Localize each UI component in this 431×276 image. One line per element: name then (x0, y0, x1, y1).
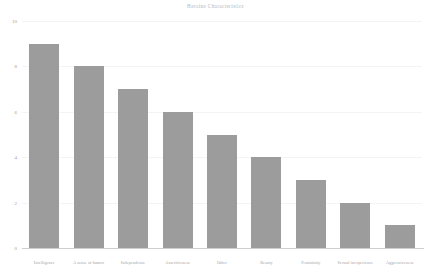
bar-slot (289, 21, 333, 248)
bar-chart: Heroine Characteristics 0246810 Intellig… (0, 0, 431, 276)
x-axis-tick: Sexual inexperience (333, 250, 377, 266)
x-axis-tick-label: Sexual inexperience (337, 261, 373, 266)
x-axis-tick: Femininity (289, 250, 333, 266)
y-axis-tick-label: 8 (15, 64, 18, 69)
bar-series (22, 21, 422, 248)
bar-slot (200, 21, 244, 248)
bar[interactable] (207, 135, 237, 249)
bar[interactable] (163, 112, 193, 248)
x-axis-tick-label: Other (217, 261, 227, 266)
y-axis-tick-label: 10 (12, 19, 17, 24)
bar[interactable] (251, 157, 281, 248)
bar-slot (378, 21, 422, 248)
plot-area (22, 21, 422, 248)
x-axis-tick-label: Beauty (260, 261, 272, 266)
x-axis-tick-label: Aggressiveness (386, 261, 413, 266)
bar[interactable] (385, 225, 415, 248)
x-axis-tick: A sense of humor (66, 250, 110, 266)
y-axis-tick-label: 2 (15, 200, 18, 205)
x-axis-tick: Intelligence (22, 250, 66, 266)
x-axis-tick: Other (200, 250, 244, 266)
y-axis-tick-label: 6 (15, 109, 18, 114)
bar-slot (155, 21, 199, 248)
bar-slot (22, 21, 66, 248)
bar-slot (66, 21, 110, 248)
chart-title: Heroine Characteristics (0, 3, 431, 9)
x-axis-tick: Beauty (244, 250, 288, 266)
x-axis-tick-label: Intelligence (34, 261, 55, 266)
x-axis-tick: Assertiveness (155, 250, 199, 266)
x-axis-tick: Independence (111, 250, 155, 266)
x-axis: IntelligenceA sense of humorIndependence… (22, 250, 422, 266)
gridline (22, 248, 424, 249)
bar-slot (333, 21, 377, 248)
bar-slot (111, 21, 155, 248)
x-axis-tick-label: Independence (121, 261, 145, 266)
x-axis-tick-label: Femininity (301, 261, 320, 266)
y-axis: 0246810 (0, 21, 22, 248)
x-axis-tick-label: Assertiveness (165, 261, 189, 266)
bar[interactable] (29, 44, 59, 248)
bar[interactable] (340, 203, 370, 248)
bar[interactable] (74, 66, 104, 248)
y-axis-tick-label: 4 (15, 155, 18, 160)
bar[interactable] (118, 89, 148, 248)
y-axis-tick-label: 0 (15, 246, 18, 251)
x-axis-tick-label: A sense of humor (73, 261, 104, 266)
bar[interactable] (296, 180, 326, 248)
x-axis-tick: Aggressiveness (378, 250, 422, 266)
bar-slot (244, 21, 288, 248)
